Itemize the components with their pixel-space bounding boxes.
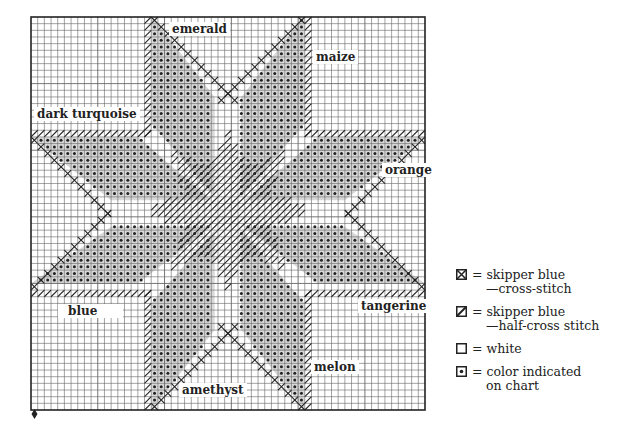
half-cross-stitch bbox=[251, 237, 258, 244]
color-dot bbox=[300, 59, 303, 62]
color-dot bbox=[140, 272, 143, 275]
half-cross-stitch bbox=[51, 130, 58, 137]
half-cross-stitch bbox=[238, 204, 245, 211]
color-dot bbox=[373, 272, 376, 275]
color-dot bbox=[247, 159, 250, 162]
color-dot bbox=[186, 65, 189, 68]
half-cross-stitch bbox=[278, 204, 285, 211]
color-dot bbox=[146, 225, 149, 228]
color-dot bbox=[193, 145, 196, 148]
color-dot bbox=[106, 159, 109, 162]
color-dot bbox=[173, 339, 176, 342]
color-dot bbox=[86, 152, 89, 155]
color-dot bbox=[200, 105, 203, 108]
color-dot bbox=[260, 339, 263, 342]
color-dot bbox=[86, 259, 89, 262]
half-cross-stitch bbox=[178, 210, 185, 217]
color-dot bbox=[186, 312, 189, 315]
color-dot bbox=[86, 139, 89, 142]
color-dot bbox=[247, 132, 250, 135]
color-dot bbox=[293, 32, 296, 35]
color-dot bbox=[153, 125, 156, 128]
color-dot bbox=[160, 32, 163, 35]
color-dot bbox=[126, 259, 129, 262]
color-dot bbox=[180, 85, 183, 88]
color-dot bbox=[153, 252, 156, 255]
half-cross-stitch bbox=[145, 124, 152, 131]
color-dot bbox=[140, 259, 143, 262]
color-dot bbox=[146, 232, 149, 235]
color-dot bbox=[347, 152, 350, 155]
color-dot bbox=[160, 259, 163, 262]
color-dot bbox=[60, 272, 63, 275]
color-dot bbox=[347, 145, 350, 148]
color-dot bbox=[280, 379, 283, 382]
legend-item-cross-stitch: = skipper blue —cross-stitch bbox=[456, 268, 616, 296]
color-dot bbox=[153, 352, 156, 355]
color-dot bbox=[347, 139, 350, 142]
half-cross-stitch bbox=[231, 263, 238, 270]
color-dot bbox=[120, 245, 123, 248]
color-dot bbox=[300, 192, 303, 195]
color-dot bbox=[173, 99, 176, 102]
color-dot bbox=[146, 259, 149, 262]
half-cross-stitch bbox=[231, 250, 238, 257]
half-cross-stitch bbox=[205, 204, 212, 211]
half-cross-stitch bbox=[398, 130, 405, 137]
color-dot bbox=[260, 332, 263, 335]
color-dot bbox=[387, 265, 390, 268]
color-dot bbox=[80, 172, 83, 175]
color-dot bbox=[367, 172, 370, 175]
color-dot bbox=[206, 132, 209, 135]
half-cross-stitch bbox=[225, 190, 232, 197]
color-dot bbox=[166, 85, 169, 88]
label-blue: blue bbox=[58, 304, 123, 318]
color-dot bbox=[193, 79, 196, 82]
color-dot bbox=[166, 232, 169, 235]
color-dot bbox=[327, 152, 330, 155]
half-cross-stitch bbox=[145, 97, 152, 104]
color-dot bbox=[373, 145, 376, 148]
half-cross-stitch bbox=[145, 337, 152, 344]
color-dot bbox=[180, 72, 183, 75]
color-dot bbox=[393, 139, 396, 142]
color-dot bbox=[93, 139, 96, 142]
color-dot bbox=[267, 292, 270, 295]
color-dot bbox=[280, 245, 283, 248]
color-dot bbox=[160, 379, 163, 382]
color-dot bbox=[126, 139, 129, 142]
color-dot bbox=[280, 325, 283, 328]
color-dot bbox=[80, 259, 83, 262]
color-dot bbox=[80, 152, 83, 155]
color-dot bbox=[146, 245, 149, 248]
color-dot bbox=[106, 185, 109, 188]
color-dot bbox=[300, 79, 303, 82]
color-dot bbox=[113, 272, 116, 275]
color-dot bbox=[206, 325, 209, 328]
color-dot bbox=[160, 39, 163, 42]
half-cross-stitch bbox=[218, 270, 225, 277]
color-dot bbox=[180, 285, 183, 288]
half-cross-stitch bbox=[285, 204, 292, 211]
color-dot bbox=[320, 225, 323, 228]
color-dot bbox=[193, 352, 196, 355]
half-cross-stitch bbox=[245, 210, 252, 217]
color-dot bbox=[60, 159, 63, 162]
color-dot bbox=[153, 359, 156, 362]
color-dot bbox=[273, 292, 276, 295]
color-dot bbox=[253, 259, 256, 262]
color-dot bbox=[273, 72, 276, 75]
color-dot bbox=[173, 279, 176, 282]
color-dot bbox=[180, 345, 183, 348]
color-dot bbox=[126, 272, 129, 275]
half-cross-stitch bbox=[124, 290, 131, 297]
color-dot bbox=[273, 365, 276, 368]
color-dot bbox=[133, 239, 136, 242]
color-dot bbox=[300, 259, 303, 262]
color-dot bbox=[200, 325, 203, 328]
legend-text-2: on chart bbox=[486, 379, 616, 393]
color-dot bbox=[200, 125, 203, 128]
color-dot bbox=[273, 92, 276, 95]
color-dot bbox=[293, 79, 296, 82]
color-dot bbox=[300, 325, 303, 328]
